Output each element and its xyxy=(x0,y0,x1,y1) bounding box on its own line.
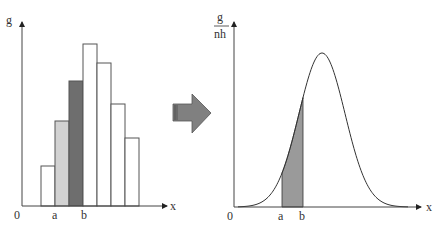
transform-arrow-icon xyxy=(173,94,211,133)
right-origin-label: 0 xyxy=(227,209,233,223)
left-a-label: a xyxy=(52,208,58,222)
shaded-area-a-b xyxy=(282,98,303,207)
histogram-bar xyxy=(41,166,55,206)
left-b-label: b xyxy=(81,208,87,222)
left-y-label: g xyxy=(6,13,12,27)
histogram-bar xyxy=(97,63,111,206)
histogram-bar xyxy=(83,44,97,206)
right-x-label: x xyxy=(426,200,432,214)
diagram-canvas: g x 0 a b g nh x 0 a b xyxy=(0,0,438,236)
histogram-bar xyxy=(69,81,83,206)
histogram-bar xyxy=(55,121,69,206)
left-histogram xyxy=(41,44,139,206)
left-origin-label: 0 xyxy=(14,208,20,222)
left-x-label: x xyxy=(170,199,176,213)
right-b-label: b xyxy=(299,209,305,223)
right-y-label-denominator: nh xyxy=(214,27,226,41)
right-a-label: a xyxy=(278,209,284,223)
histogram-bar xyxy=(111,104,125,206)
right-y-label-numerator: g xyxy=(217,10,223,24)
histogram-bar xyxy=(125,138,139,206)
normal-curve xyxy=(238,53,408,207)
